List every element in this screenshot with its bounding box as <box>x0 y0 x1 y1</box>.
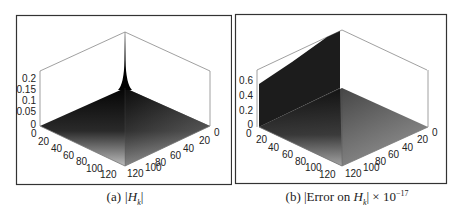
svg-text:60: 60 <box>63 150 75 161</box>
svg-text:40: 40 <box>183 143 195 154</box>
svg-text:20: 20 <box>417 134 429 145</box>
svg-text:40: 40 <box>402 142 414 153</box>
svg-text:0.1: 0.1 <box>22 95 36 106</box>
caption-b: (b) |Error on Hk| × 10−17 <box>232 189 462 207</box>
svg-text:0.2: 0.2 <box>22 73 36 84</box>
svg-text:0.2: 0.2 <box>239 105 253 116</box>
svg-text:20: 20 <box>38 136 50 147</box>
svg-text:0: 0 <box>31 128 37 139</box>
svg-text:0: 0 <box>246 128 252 139</box>
svg-text:120: 120 <box>127 168 144 179</box>
chart-panel-a: 0.2 0.15 0.1 0.05 0 0 20 40 60 80 100 12… <box>0 0 232 216</box>
svg-text:0.4: 0.4 <box>239 90 253 101</box>
caption-a: (a) |Hk| <box>0 189 250 207</box>
svg-text:40: 40 <box>268 142 280 153</box>
svg-text:100: 100 <box>145 162 162 173</box>
svg-text:100: 100 <box>363 162 380 173</box>
svg-text:60: 60 <box>282 149 294 160</box>
svg-text:40: 40 <box>51 143 63 154</box>
svg-text:20: 20 <box>256 134 268 145</box>
svg-text:60: 60 <box>170 150 182 161</box>
svg-text:20: 20 <box>199 135 211 146</box>
z-axis-labels-a: 0.2 0.15 0.1 0.05 0 <box>17 73 37 130</box>
surface-plot-a: 0.2 0.15 0.1 0.05 0 0 20 40 60 80 100 12… <box>0 0 232 190</box>
chart-panel-b: 0.6 0.4 0.2 0 0 20 40 60 80 100 120 0 20… <box>232 0 462 216</box>
svg-text:0.05: 0.05 <box>17 106 37 117</box>
svg-text:120: 120 <box>345 168 362 179</box>
svg-text:0: 0 <box>432 127 438 138</box>
peak-spike <box>118 32 132 90</box>
svg-text:120: 120 <box>100 169 117 180</box>
surface-plot-b: 0.6 0.4 0.2 0 0 20 40 60 80 100 120 0 20… <box>232 0 462 190</box>
z-axis-labels-b: 0.6 0.4 0.2 0 <box>239 75 253 130</box>
svg-text:120: 120 <box>319 169 336 180</box>
svg-text:0.6: 0.6 <box>239 75 253 86</box>
svg-text:0.15: 0.15 <box>17 84 37 95</box>
svg-text:60: 60 <box>388 149 400 160</box>
svg-text:0: 0 <box>214 127 220 138</box>
